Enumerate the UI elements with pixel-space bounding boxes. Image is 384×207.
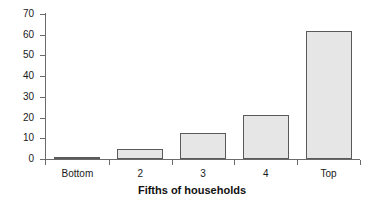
y-tick-label: 30 — [8, 92, 34, 102]
x-tick-label: 3 — [172, 168, 235, 179]
bar — [54, 157, 100, 159]
x-tick-label: Top — [297, 168, 360, 179]
y-tick-label: 40 — [8, 71, 34, 81]
x-tick-mark — [297, 160, 298, 165]
y-tick-mark — [40, 76, 45, 77]
bar-chart: 010203040506070 Bottom234Top Fifths of h… — [0, 0, 384, 207]
bar — [306, 31, 352, 159]
y-tick-mark — [40, 35, 45, 36]
y-tick-mark — [40, 14, 45, 15]
bar — [117, 149, 163, 159]
x-axis-line — [45, 159, 360, 160]
y-tick-mark — [40, 55, 45, 56]
x-tick-label: 4 — [234, 168, 297, 179]
x-tick-label: Bottom — [46, 168, 109, 179]
y-tick-label: 0 — [8, 154, 34, 164]
x-tick-mark — [234, 160, 235, 165]
y-tick-mark — [40, 118, 45, 119]
y-tick-label: 70 — [8, 9, 34, 19]
x-tick-mark — [360, 160, 361, 165]
y-tick-mark — [40, 97, 45, 98]
x-axis-title: Fifths of households — [0, 184, 384, 197]
y-tick-label: 50 — [8, 50, 34, 60]
x-tick-label: 2 — [109, 168, 172, 179]
y-tick-label: 10 — [8, 133, 34, 143]
y-tick-mark — [40, 138, 45, 139]
x-tick-mark — [172, 160, 173, 165]
y-tick-label: 60 — [8, 30, 34, 40]
x-tick-mark — [109, 160, 110, 165]
plot-area — [46, 14, 360, 159]
bar — [243, 115, 289, 159]
x-tick-mark — [45, 160, 46, 165]
bar — [180, 133, 226, 159]
y-tick-label: 20 — [8, 113, 34, 123]
